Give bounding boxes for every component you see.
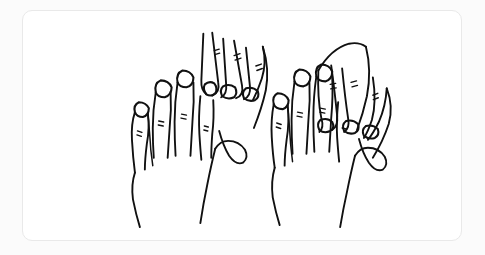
palm-outer-edge: [272, 168, 280, 225]
left-hand-pair: [132, 33, 267, 227]
angled-finger-3: [243, 47, 265, 101]
palm-outer-edge: [132, 173, 140, 228]
fingernail: [294, 69, 310, 86]
fingernail: [134, 102, 148, 117]
right-front-hand: [271, 65, 386, 228]
middle-finger: [175, 70, 194, 155]
fingernail: [273, 93, 288, 109]
fingernail: [343, 120, 359, 133]
angled-finger-1: [318, 66, 337, 133]
thumb: [340, 139, 386, 227]
thumb: [200, 131, 246, 223]
drawing-card: [22, 10, 462, 241]
hands-line-drawing: [23, 11, 461, 240]
rear-hand-top-arc: [318, 43, 366, 70]
fingernail: [204, 82, 217, 95]
fingernail: [155, 80, 171, 97]
left-rear-hand: [201, 33, 267, 128]
angled-finger-1: [201, 33, 219, 96]
middle-finger: [313, 65, 332, 152]
ring-finger: [153, 80, 172, 157]
screenshot-stage: [0, 0, 485, 255]
pinky-finger: [271, 93, 288, 167]
angled-finger-2: [342, 47, 369, 134]
index-finger: [199, 96, 214, 159]
pinky-finger: [132, 102, 149, 172]
right-hand-pair: [271, 43, 390, 227]
angled-finger-2: [221, 39, 242, 99]
fingernail: [177, 70, 193, 87]
ring-finger: [292, 69, 311, 153]
left-front-hand: [132, 70, 247, 227]
rear-hand-edge: [254, 47, 267, 128]
fingernail: [221, 85, 236, 98]
angled-finger-3: [363, 77, 387, 139]
